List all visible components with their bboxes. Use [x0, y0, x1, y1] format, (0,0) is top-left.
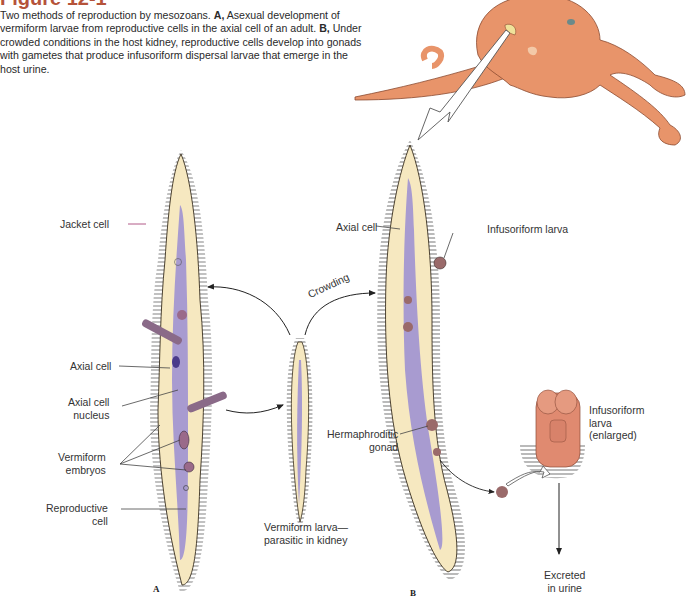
- panel-label-b: B: [410, 588, 416, 598]
- label-vermiform-larva: Vermiform larva— parasitic in kidney: [264, 521, 348, 546]
- label-reproductive-cell: Reproductive cell: [46, 502, 108, 527]
- label-infusoriform-larva: Infusoriform larva: [487, 223, 568, 236]
- arrow-to-adult-a: [208, 287, 290, 335]
- arrow-crowding: [305, 293, 375, 335]
- arrow-open-enlarge: [506, 466, 550, 486]
- label-axial-cell-nucleus: Axial cell nucleus: [68, 396, 109, 421]
- label-axial-cell-a: Axial cell: [70, 360, 111, 373]
- label-vermiform-embryos: Vermiform embryos: [58, 451, 106, 476]
- adult-mesozoan-a: [141, 150, 228, 592]
- adult-mesozoan-b: [377, 140, 508, 580]
- infusoriform-larva-enlarged: [520, 390, 585, 478]
- vermiform-larva: [287, 338, 313, 530]
- label-excreted-in-urine: Excreted in urine: [544, 569, 585, 594]
- octopus-host-illustration: [355, 0, 685, 145]
- label-axial-cell-b: Axial cell: [336, 221, 377, 234]
- label-hermaphroditic-gonad: Hermaphroditic gonad: [327, 428, 398, 453]
- arrow-embryo-to-larva: [226, 405, 283, 413]
- label-jacket-cell: Jacket cell: [60, 218, 109, 231]
- panel-label-a: A: [153, 584, 160, 594]
- label-infusoriform-enlarged: Infusoriform larva (enlarged): [589, 404, 644, 442]
